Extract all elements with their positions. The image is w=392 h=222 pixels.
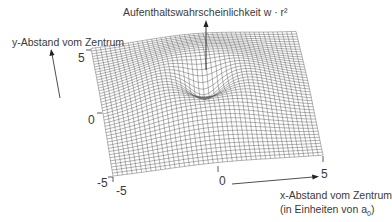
x-axis-unit-suffix: ) xyxy=(371,203,375,215)
x-tick-5: 5 xyxy=(321,168,328,180)
y-axis-label: y-Abstand vom Zentrum xyxy=(12,37,124,48)
x-tick-0: 0 xyxy=(219,175,226,187)
x-axis-unit: (in Einheiten von a0) xyxy=(280,204,374,217)
x-axis-arrowhead-icon xyxy=(312,175,319,180)
x-axis-arrow xyxy=(232,177,313,184)
y-tick-minus5: -5 xyxy=(97,177,108,189)
z-axis-title: Aufenthaltswahrscheinlichkeit w · r² xyxy=(123,7,288,18)
z-axis-arrowhead-icon xyxy=(204,20,209,27)
y-tick-5: 5 xyxy=(78,52,85,64)
y-tick-0: 0 xyxy=(88,114,95,126)
y-axis-arrow xyxy=(52,54,60,98)
x-axis-label: x-Abstand vom Zentrum xyxy=(280,190,392,201)
y-axis-arrowhead-icon xyxy=(50,49,55,56)
x-axis-unit-prefix: (in Einheiten von a xyxy=(280,203,367,215)
x-tick-minus5: -5 xyxy=(116,185,127,197)
z-axis-title-text: Aufenthaltswahrscheinlichkeit w · r² xyxy=(123,6,288,18)
